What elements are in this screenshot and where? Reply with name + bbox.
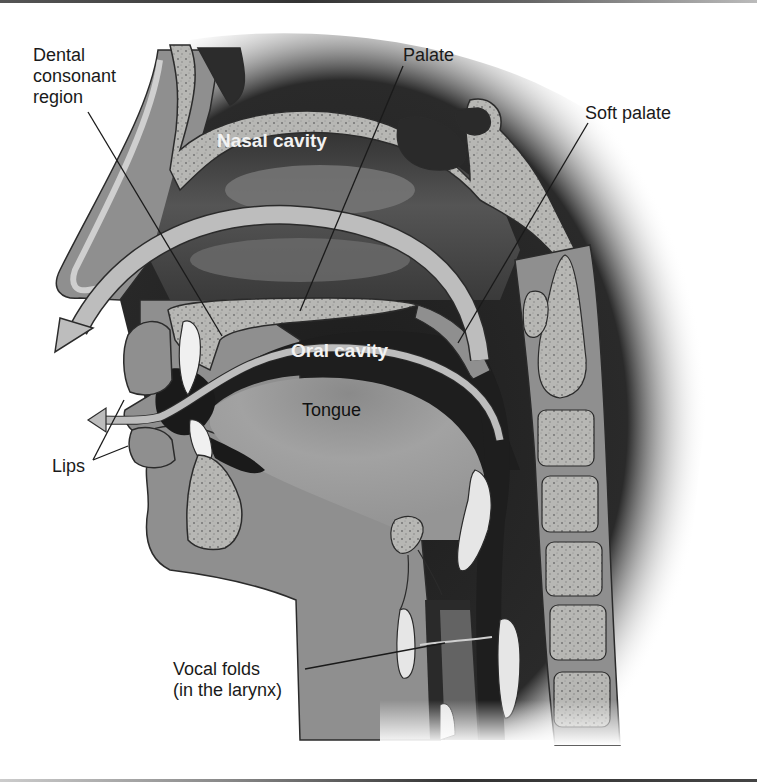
- label-soft-palate: Soft palate: [585, 103, 671, 124]
- vocal-tract-figure: Dental consonant region Palate Soft pala…: [0, 0, 757, 782]
- vertebra-c2: [538, 410, 594, 466]
- label-vocal-folds: Vocal folds (in the larynx): [173, 659, 282, 701]
- bottom-fade: [380, 700, 757, 745]
- label-lips: Lips: [52, 456, 85, 477]
- label-nasal-cavity: Nasal cavity: [217, 130, 327, 151]
- label-tongue: Tongue: [302, 400, 361, 421]
- label-palate: Palate: [403, 45, 454, 66]
- label-dental-consonant-region: Dental consonant region: [33, 45, 116, 108]
- nasal-turbinate-lower: [190, 238, 410, 282]
- label-oral-cavity: Oral cavity: [291, 340, 388, 361]
- leader-lips-upper: [93, 400, 124, 460]
- upper-lip: [124, 322, 172, 395]
- vertebra-c3: [542, 476, 598, 532]
- thyroid-cartilage: [397, 609, 415, 678]
- vertebra-c5: [550, 605, 606, 660]
- leader-lips-lower: [93, 446, 128, 460]
- vertebra-c4: [546, 542, 602, 596]
